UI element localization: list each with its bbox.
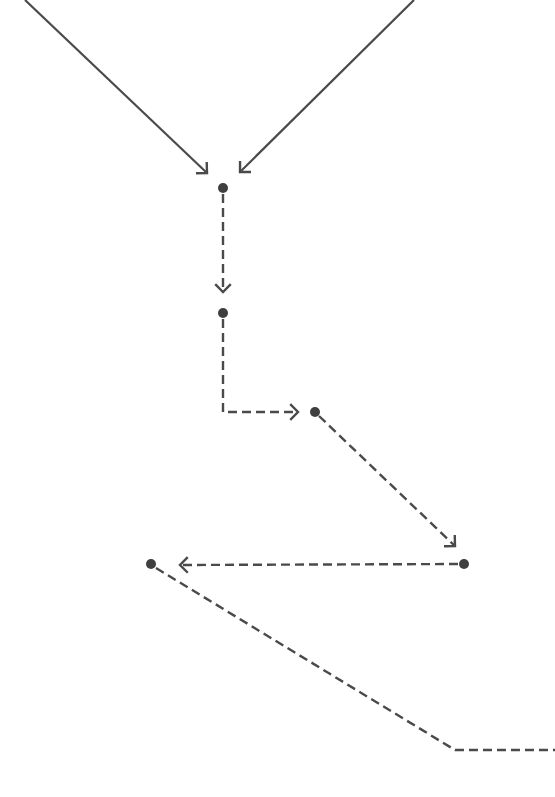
- dashed-connector-line: [180, 564, 458, 565]
- dashed-connector-line: [223, 319, 298, 412]
- solid-connector-line: [240, 0, 414, 172]
- node-dot-n4: [459, 559, 469, 569]
- edge-incoming-right: [240, 0, 414, 172]
- nodes-layer: [146, 183, 469, 569]
- edges-layer: [25, 0, 555, 750]
- edge-n1-to-n2: [215, 194, 231, 292]
- edge-n4-to-n5: [180, 557, 458, 573]
- edge-incoming-left: [25, 0, 207, 173]
- edge-n3-to-n4: [319, 416, 455, 546]
- node-dot-n3: [310, 407, 320, 417]
- solid-connector-line: [25, 0, 207, 173]
- node-dot-n5: [146, 559, 156, 569]
- edge-n2-to-n3: [223, 319, 298, 420]
- node-dot-n1: [218, 183, 228, 193]
- node-dot-n2: [218, 308, 228, 318]
- dashed-connector-line: [156, 568, 555, 750]
- dashed-connector-line: [319, 416, 455, 546]
- flow-diagram-canvas: [0, 0, 555, 797]
- edge-n5-outgoing: [156, 568, 555, 750]
